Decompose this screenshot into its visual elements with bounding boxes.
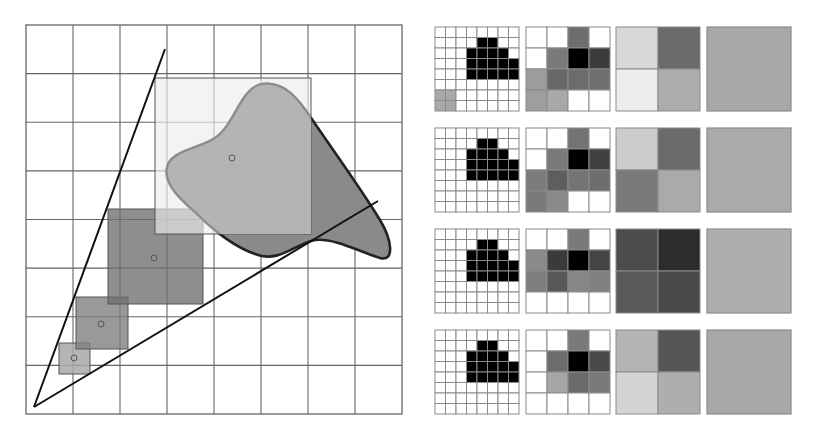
texel — [435, 181, 446, 192]
texel — [446, 27, 457, 38]
texel — [498, 341, 509, 352]
texel — [568, 292, 589, 313]
texel — [467, 149, 478, 160]
texel — [658, 372, 700, 414]
texel — [456, 160, 467, 171]
texel — [488, 170, 499, 181]
texel — [526, 128, 547, 149]
texel — [547, 191, 568, 212]
texel — [456, 271, 467, 282]
texel — [467, 341, 478, 352]
texel — [456, 191, 467, 202]
texel — [488, 80, 499, 91]
texel — [435, 341, 446, 352]
texel — [509, 330, 520, 341]
texel — [435, 271, 446, 282]
texel — [446, 160, 457, 171]
mipmap-row-1 — [435, 27, 791, 111]
texel — [616, 271, 658, 313]
texel — [589, 69, 610, 90]
texel — [446, 90, 457, 101]
texel — [616, 128, 658, 170]
texel — [435, 128, 446, 139]
texel — [456, 128, 467, 139]
texel — [477, 101, 488, 112]
texel — [509, 128, 520, 139]
texel — [467, 292, 478, 303]
texel — [589, 271, 610, 292]
texel — [498, 38, 509, 49]
texel — [616, 27, 658, 69]
texel — [477, 404, 488, 415]
texel — [707, 330, 791, 414]
texel — [467, 80, 478, 91]
texel — [509, 292, 520, 303]
texel — [568, 69, 589, 90]
texel — [446, 404, 457, 415]
texel — [435, 27, 446, 38]
texel — [477, 48, 488, 59]
texel — [658, 229, 700, 271]
texel — [616, 69, 658, 111]
texel — [547, 69, 568, 90]
tile-level-1x1 — [707, 27, 791, 111]
texel — [467, 139, 478, 150]
texel — [446, 271, 457, 282]
texel — [488, 202, 499, 213]
texel — [446, 202, 457, 213]
texel — [467, 282, 478, 293]
texel — [547, 372, 568, 393]
texel — [477, 250, 488, 261]
texel — [477, 90, 488, 101]
texel — [477, 271, 488, 282]
texel — [488, 139, 499, 150]
texel — [435, 351, 446, 362]
texel — [477, 202, 488, 213]
texel — [467, 303, 478, 314]
texel — [488, 341, 499, 352]
texel — [488, 383, 499, 394]
texel — [477, 160, 488, 171]
texel — [456, 292, 467, 303]
texel — [509, 261, 520, 272]
texel — [488, 261, 499, 272]
texel — [509, 139, 520, 150]
texel — [509, 48, 520, 59]
texel — [568, 170, 589, 191]
texel — [589, 27, 610, 48]
texel — [488, 351, 499, 362]
texel — [547, 351, 568, 372]
texel — [435, 240, 446, 251]
texel — [467, 69, 478, 80]
texel — [488, 271, 499, 282]
texel — [509, 341, 520, 352]
texel — [456, 393, 467, 404]
texel — [446, 362, 457, 373]
texel — [477, 229, 488, 240]
texel — [526, 191, 547, 212]
texel — [435, 139, 446, 150]
texel — [456, 202, 467, 213]
texel — [488, 330, 499, 341]
texel — [509, 191, 520, 202]
texel — [547, 330, 568, 351]
texel — [658, 128, 700, 170]
texel — [526, 149, 547, 170]
texel — [589, 292, 610, 313]
texel — [446, 80, 457, 91]
texel — [568, 330, 589, 351]
texel — [467, 38, 478, 49]
texel — [435, 303, 446, 314]
texel — [477, 341, 488, 352]
texel — [446, 240, 457, 251]
texel — [435, 404, 446, 415]
texel — [589, 372, 610, 393]
texel — [488, 250, 499, 261]
texel — [509, 271, 520, 282]
texel — [456, 362, 467, 373]
texel — [456, 303, 467, 314]
texel — [509, 372, 520, 383]
texel — [498, 48, 509, 59]
texel — [498, 139, 509, 150]
texel — [477, 38, 488, 49]
